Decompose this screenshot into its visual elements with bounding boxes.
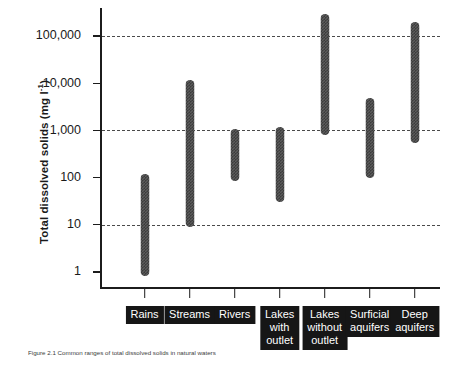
range-bar xyxy=(365,98,374,178)
y-tick-10000: 10,000 xyxy=(93,83,101,85)
category-label-streams: Streams xyxy=(164,306,215,324)
figure-caption: Figure 2.1 Common ranges of total dissol… xyxy=(28,349,448,357)
range-bar xyxy=(320,14,329,135)
category-label-rivers: Rivers xyxy=(214,306,255,324)
category-label-surficial-aquifers: Surficial aquifers xyxy=(345,306,394,337)
y-tick-10: 10 xyxy=(93,224,101,226)
y-tick-1: 1 xyxy=(93,271,101,273)
y-axis-line xyxy=(100,8,102,289)
range-bar xyxy=(410,22,419,143)
y-tick-label-10: 10 xyxy=(67,217,81,231)
range-bar xyxy=(185,80,194,227)
y-tick-1000: 1,000 xyxy=(93,130,101,132)
x-tick-3 xyxy=(279,289,281,298)
plot-area: 1101001,00010,000100,000 RainsStreamsRiv… xyxy=(100,8,440,288)
range-bar xyxy=(230,129,239,181)
range-bar xyxy=(275,127,284,202)
category-label-rains: Rains xyxy=(125,306,163,324)
category-label-lakes-with-outlet: Lakes with outlet xyxy=(260,306,299,350)
y-tick-label-1000: 1,000 xyxy=(50,123,81,137)
x-tick-5 xyxy=(369,289,371,298)
x-tick-0 xyxy=(144,289,146,298)
figure-chart: Total dissolved solids (mg l-1) 1101001,… xyxy=(0,0,455,365)
y-tick-label-1: 1 xyxy=(74,264,81,278)
x-tick-2 xyxy=(234,289,236,298)
y-axis-title-text: Total dissolved solids (mg l xyxy=(38,91,50,244)
x-tick-1 xyxy=(189,289,191,298)
category-label-deep-aquifers: Deep aquifers xyxy=(390,306,439,337)
y-tick-100000: 100,000 xyxy=(93,35,101,37)
y-tick-label-100000: 100,000 xyxy=(36,28,81,42)
y-tick-label-100: 100 xyxy=(60,170,81,184)
gridline-10 xyxy=(102,225,440,226)
gridline-1000 xyxy=(102,130,440,131)
x-tick-4 xyxy=(324,289,326,298)
x-tick-6 xyxy=(414,289,416,298)
x-axis-line xyxy=(100,287,440,289)
category-label-lakes-without-outlet: Lakes without outlet xyxy=(302,306,347,350)
y-tick-100: 100 xyxy=(93,177,101,179)
y-tick-label-10000: 10,000 xyxy=(43,76,81,90)
range-bar xyxy=(140,174,149,276)
gridline-100000 xyxy=(102,36,440,37)
